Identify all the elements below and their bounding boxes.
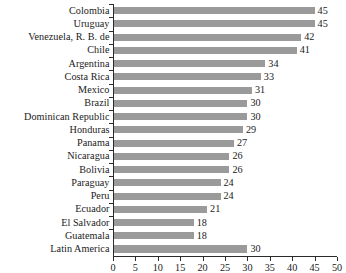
- x-axis-tick-label: 15: [175, 263, 185, 273]
- bar: [113, 206, 207, 213]
- y-axis-line: [113, 4, 114, 256]
- bar-value-label: 30: [250, 98, 260, 108]
- bar-track: 24: [113, 190, 346, 203]
- x-axis-tick: [315, 257, 316, 261]
- bar-value-label: 45: [318, 6, 328, 16]
- x-axis-tick-label: 30: [242, 263, 252, 273]
- bar: [113, 34, 301, 41]
- bar-track: 27: [113, 137, 346, 150]
- x-axis-tick: [113, 257, 114, 261]
- bar-track: 30: [113, 97, 346, 110]
- y-axis-tick: [109, 31, 113, 32]
- bar: [113, 245, 247, 253]
- bar-row: Argentina34: [0, 57, 346, 70]
- category-label: Venezuela, R. B. de: [28, 32, 109, 42]
- bar-row: Paraguay24: [0, 176, 346, 189]
- bar-row: El Salvador18: [0, 216, 346, 229]
- bar-track: 21: [113, 203, 346, 216]
- bar: [113, 100, 247, 107]
- bar: [113, 7, 315, 14]
- x-axis-tick: [225, 257, 226, 261]
- y-axis-tick: [109, 176, 113, 177]
- bar: [113, 153, 229, 160]
- category-label: Chile: [87, 45, 109, 55]
- bar: [113, 179, 221, 186]
- y-axis-tick: [109, 110, 113, 111]
- bar: [113, 126, 243, 133]
- x-axis-tick-label: 45: [310, 263, 320, 273]
- bar-value-label: 27: [237, 138, 247, 148]
- bar: [113, 73, 261, 80]
- y-axis-tick: [109, 203, 113, 204]
- category-label: Panama: [77, 138, 110, 148]
- y-axis-tick: [109, 70, 113, 71]
- y-axis-tick: [109, 17, 113, 18]
- category-label: Uruguay: [74, 19, 110, 29]
- bar: [113, 140, 234, 147]
- bar-row: Costa Rica33: [0, 70, 346, 83]
- bar-value-label: 33: [264, 72, 274, 82]
- x-axis-tick: [158, 257, 159, 261]
- bar-value-label: 29: [246, 125, 256, 135]
- bar-track: 30: [113, 110, 346, 123]
- bar-row: Guatemala18: [0, 229, 346, 242]
- bar-value-label: 26: [232, 165, 242, 175]
- category-label: Bolivia: [79, 165, 109, 175]
- category-label: Nicaragua: [67, 151, 109, 161]
- bar-row: Chile41: [0, 44, 346, 57]
- bar-row: Panama27: [0, 137, 346, 150]
- bar-track: 18: [113, 216, 346, 229]
- bar-value-label: 18: [197, 218, 207, 228]
- bar: [113, 219, 194, 226]
- bar-value-label: 41: [300, 45, 310, 55]
- x-axis-tick: [247, 257, 248, 261]
- bar-track: 18: [113, 229, 346, 242]
- bar-rows: Colombia45Uruguay45Venezuela, R. B. de42…: [0, 4, 346, 256]
- x-axis-tick-label: 40: [287, 263, 297, 273]
- bar-row: Uruguay45: [0, 17, 346, 30]
- x-axis-tick-label: 25: [220, 263, 230, 273]
- bar-row: Venezuela, R. B. de42: [0, 31, 346, 44]
- y-axis-tick: [109, 163, 113, 164]
- category-label: Dominican Republic: [24, 112, 110, 122]
- bar-track: 41: [113, 44, 346, 57]
- category-label: Mexico: [78, 85, 109, 95]
- bar-row: Latin America30: [0, 243, 346, 256]
- y-axis-tick: [109, 44, 113, 45]
- bar-track: 45: [113, 4, 346, 17]
- bar-value-label: 26: [232, 151, 242, 161]
- y-axis-tick: [109, 216, 113, 217]
- category-label: El Salvador: [61, 218, 109, 228]
- y-axis-tick: [109, 137, 113, 138]
- y-axis-tick: [109, 150, 113, 151]
- category-label: Costa Rica: [65, 72, 110, 82]
- y-axis-tick: [109, 57, 113, 58]
- bar-row: Dominican Republic30: [0, 110, 346, 123]
- bar-value-label: 24: [224, 191, 234, 201]
- y-axis-tick: [109, 97, 113, 98]
- bar: [113, 232, 194, 239]
- x-axis-tick-label: 35: [265, 263, 275, 273]
- bar-track: 26: [113, 150, 346, 163]
- category-label: Latin America: [50, 244, 109, 254]
- category-label: Peru: [91, 191, 110, 201]
- bar-row: Honduras29: [0, 123, 346, 136]
- bar-row: Nicaragua26: [0, 150, 346, 163]
- bar-value-label: 24: [224, 178, 234, 188]
- x-axis-tick-label: 50: [332, 263, 342, 273]
- x-axis-tick: [135, 257, 136, 261]
- x-axis-tick: [292, 257, 293, 261]
- bar-value-label: 18: [197, 231, 207, 241]
- y-axis-tick: [109, 123, 113, 124]
- bar: [113, 47, 297, 54]
- x-axis-tick-label: 5: [133, 263, 138, 273]
- x-axis-tick: [337, 257, 338, 261]
- bar-track: 31: [113, 84, 346, 97]
- bar-track: 26: [113, 163, 346, 176]
- x-axis-tick-label: 10: [153, 263, 163, 273]
- y-axis-tick: [109, 229, 113, 230]
- bar-value-label: 30: [250, 244, 260, 254]
- category-label: Argentina: [68, 59, 109, 69]
- bar-track: 45: [113, 17, 346, 30]
